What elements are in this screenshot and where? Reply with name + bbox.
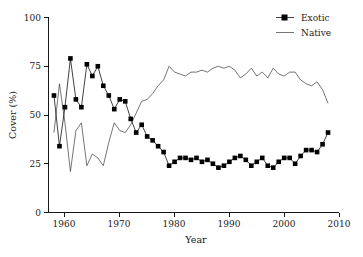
exotic-data-point — [222, 163, 227, 168]
exotic-data-point — [178, 156, 183, 161]
exotic-data-point — [244, 158, 249, 163]
exotic-data-point — [315, 150, 320, 155]
cover-vs-year-line-chart: 0 25 50 75 100 1960 1970 1980 1990 2000 … — [0, 0, 363, 257]
exotic-data-point — [183, 156, 188, 161]
exotic-data-point — [238, 154, 243, 159]
exotic-data-point — [216, 165, 221, 170]
exotic-data-point — [194, 156, 199, 161]
exotic-data-point — [123, 99, 128, 104]
x-axis-title: Year — [184, 234, 207, 245]
legend-label-exotic: Exotic — [301, 13, 330, 23]
exotic-data-point — [304, 148, 309, 153]
exotic-data-point — [287, 156, 292, 161]
exotic-data-point — [227, 160, 232, 165]
exotic-data-point — [96, 64, 101, 69]
exotic-data-point — [52, 93, 57, 98]
x-tick-label-1960: 1960 — [53, 219, 76, 229]
exotic-data-point — [254, 160, 259, 165]
x-axis-tick-labels: 1960 1970 1980 1990 2000 2010 — [53, 219, 351, 229]
x-axis-ticks — [64, 213, 339, 218]
x-tick-label-2010: 2010 — [328, 219, 351, 229]
exotic-data-point — [309, 148, 314, 153]
exotic-series-line — [54, 58, 328, 167]
y-tick-label-25: 25 — [30, 159, 42, 169]
exotic-data-point — [189, 158, 194, 163]
exotic-data-point — [128, 117, 133, 122]
exotic-data-point — [298, 154, 303, 159]
exotic-data-point — [260, 156, 265, 161]
exotic-data-point — [74, 97, 79, 102]
exotic-data-point — [106, 93, 111, 98]
exotic-data-point — [293, 161, 298, 166]
exotic-data-point — [276, 160, 281, 165]
exotic-data-point — [265, 163, 270, 168]
x-tick-label-1990: 1990 — [218, 219, 241, 229]
y-tick-label-0: 0 — [35, 208, 41, 218]
chart-figure: 0 25 50 75 100 1960 1970 1980 1990 2000 … — [0, 0, 363, 257]
exotic-data-point — [63, 105, 68, 110]
exotic-data-point — [249, 163, 254, 168]
exotic-data-point — [79, 105, 84, 110]
y-axis-ticks — [44, 18, 49, 213]
exotic-data-point — [233, 156, 238, 161]
exotic-data-point — [101, 83, 106, 88]
exotic-data-point — [156, 144, 161, 149]
exotic-data-point — [320, 142, 325, 147]
y-axis-title: Cover (%) — [7, 91, 18, 139]
y-tick-label-75: 75 — [30, 61, 42, 71]
exotic-data-point — [145, 134, 150, 139]
exotic-data-point — [172, 160, 177, 165]
exotic-data-point — [161, 150, 166, 155]
y-tick-label-50: 50 — [30, 110, 42, 120]
exotic-data-point — [57, 144, 62, 149]
exotic-data-point — [211, 161, 216, 166]
exotic-data-point — [85, 62, 90, 67]
exotic-data-point — [112, 107, 117, 112]
exotic-data-point — [271, 165, 276, 170]
y-tick-label-100: 100 — [24, 13, 41, 23]
exotic-data-point — [139, 122, 144, 127]
exotic-data-point — [167, 163, 172, 168]
x-tick-label-1970: 1970 — [108, 219, 131, 229]
legend-exotic-marker-icon — [282, 15, 288, 21]
legend-label-native: Native — [301, 28, 331, 38]
exotic-data-point — [117, 97, 122, 102]
exotic-data-point — [90, 74, 95, 79]
exotic-data-point — [134, 130, 139, 135]
x-tick-label-1980: 1980 — [163, 219, 186, 229]
exotic-data-point — [205, 158, 210, 163]
exotic-data-point — [326, 130, 331, 135]
y-axis-tick-labels: 0 25 50 75 100 — [24, 13, 41, 218]
exotic-data-point — [200, 160, 205, 165]
chart-legend: Exotic Native — [276, 13, 331, 38]
x-tick-label-2000: 2000 — [273, 219, 296, 229]
exotic-data-point — [68, 56, 73, 61]
exotic-data-point — [150, 138, 155, 143]
exotic-data-point — [282, 156, 287, 161]
native-series-line — [54, 66, 328, 171]
